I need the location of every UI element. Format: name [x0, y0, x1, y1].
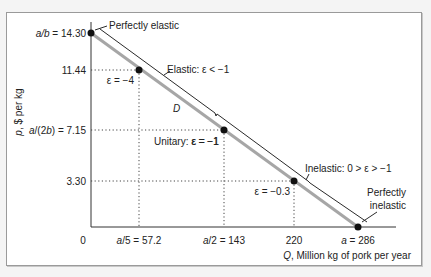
point-perfectly-inelastic	[355, 224, 362, 231]
label-elastic: Elastic: ε < −1	[167, 64, 230, 75]
label-eps-minus-0-3: ε = −0.3	[254, 186, 290, 197]
label-demand: D	[173, 103, 180, 114]
y-tick-7-15: a/(2b) = 7.15	[29, 125, 86, 136]
point-perfectly-elastic	[88, 30, 95, 37]
label-eps-minus-1: ε = −1	[192, 136, 220, 147]
origin-label: 0	[80, 235, 86, 246]
point-unitary	[221, 127, 228, 134]
x-tick-143: a/2 = 143	[203, 235, 245, 246]
y-axis-label: p, $ per kg	[13, 88, 24, 136]
x-axis-label: Q, Million kg of pork per year	[283, 250, 412, 261]
point-inelastic	[291, 178, 298, 185]
y-tick-11-44: 11.44	[62, 65, 87, 76]
x-tick-220: 220	[286, 235, 303, 246]
y-tick-14-30: a/b = 14.30	[36, 28, 87, 39]
leader-inelastic	[306, 174, 309, 180]
label-perfectly-inelastic-1: Perfectly	[367, 187, 406, 198]
x-tick-286: a = 286	[341, 235, 375, 246]
elasticity-chart: p, $ per kg a/b = 14.30 11.44 a/(2b) = 7…	[0, 0, 431, 277]
elasticity-bracket	[100, 29, 367, 222]
leader-perfectly-inelastic	[362, 212, 377, 222]
y-tick-3-30: 3.30	[67, 176, 87, 187]
label-eps-minus-4: ε = −4	[107, 75, 135, 86]
x-tick-57-2: a/5 = 57.2	[117, 235, 162, 246]
label-perfectly-elastic: Perfectly elastic	[109, 20, 179, 31]
point-elastic	[136, 67, 143, 74]
label-perfectly-inelastic-2: inelastic	[370, 200, 406, 211]
label-inelastic: Inelastic: 0 > ε > −1	[305, 163, 392, 174]
